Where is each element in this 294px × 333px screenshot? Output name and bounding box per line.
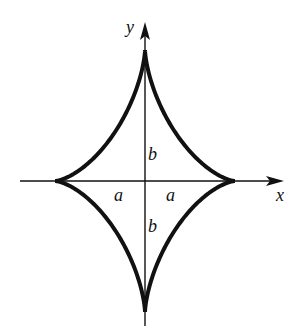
y-axis-label: y — [126, 18, 134, 36]
astroid-diagram: y x b b a a — [0, 0, 294, 333]
b-top-label: b — [148, 145, 157, 163]
a-right-label: a — [166, 186, 175, 204]
b-bottom-label: b — [148, 217, 157, 235]
diagram-canvas — [0, 0, 294, 333]
a-left-label: a — [114, 186, 123, 204]
x-axis-label: x — [276, 186, 284, 204]
